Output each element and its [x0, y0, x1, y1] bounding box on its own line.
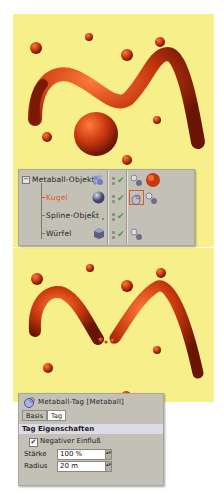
metaball-tag-icon [130, 193, 143, 206]
phong-tag-icon[interactable] [130, 228, 143, 241]
editor-visibility-dot[interactable] [112, 231, 115, 234]
tree-branch [41, 215, 45, 216]
radius-label: Radius [24, 462, 47, 470]
enabled-check-icon[interactable]: ✔ [117, 212, 125, 221]
tree-branch [41, 197, 45, 198]
tab-tag[interactable]: Tag [47, 410, 66, 421]
tab-bar: Basis Tag [22, 410, 66, 421]
attribute-title: Metaball-Tag [Metaball] [38, 398, 124, 406]
metaball-tag-icon [23, 396, 36, 408]
render-visibility-dot[interactable] [112, 200, 115, 203]
object-row-spline[interactable]: Spline-Objekt ✔ [19, 209, 194, 227]
enabled-check-icon[interactable]: ✔ [117, 176, 125, 185]
cube-icon [92, 227, 105, 240]
metaball-icon [92, 173, 105, 186]
strength-label: Stärke [24, 450, 46, 458]
editor-visibility-dot[interactable] [112, 213, 115, 216]
spline-icon [92, 209, 105, 222]
attribute-manager: Metaball-Tag [Metaball] Basis Tag Tag Ei… [18, 393, 164, 486]
metaball-render-negative [13, 248, 214, 402]
tree-branch [41, 233, 45, 234]
negative-influence-label: Negativer Einfluß [40, 437, 101, 445]
strength-spinner[interactable]: ▴▾ [105, 449, 112, 460]
render-visibility-dot[interactable] [112, 182, 115, 185]
radius-spinner[interactable]: ▴▾ [105, 461, 112, 472]
viewport-render-negative [13, 248, 214, 402]
render-visibility-dot[interactable] [112, 218, 115, 221]
object-manager: − Metaball-Objekt ✔ Kugel ✔ [18, 169, 195, 246]
editor-visibility-dot[interactable] [112, 195, 115, 198]
object-row-kugel[interactable]: Kugel ✔ [19, 191, 194, 209]
collapse-toggle[interactable]: − [22, 176, 30, 184]
object-row-metaball[interactable]: − Metaball-Objekt ✔ [19, 173, 194, 191]
negative-influence-checkbox[interactable]: ✔ [29, 438, 38, 447]
phong-tag-icon[interactable] [145, 192, 158, 205]
phong-tag-icon[interactable] [130, 174, 143, 187]
material-tag-icon[interactable] [145, 172, 161, 188]
sphere-icon [92, 191, 105, 204]
radius-input[interactable]: 20 m [57, 461, 109, 472]
strength-input[interactable]: 100 % [57, 449, 109, 460]
enabled-check-icon[interactable]: ✔ [117, 230, 125, 239]
enabled-check-icon[interactable]: ✔ [117, 194, 125, 203]
metaball-tag-selected[interactable] [129, 190, 144, 205]
editor-visibility-dot[interactable] [112, 177, 115, 180]
object-row-wuerfel[interactable]: Würfel ✔ [19, 227, 194, 245]
render-visibility-dot[interactable] [112, 236, 115, 239]
tab-basis[interactable]: Basis [22, 410, 47, 421]
section-header: Tag Eigenschaften [19, 424, 163, 434]
